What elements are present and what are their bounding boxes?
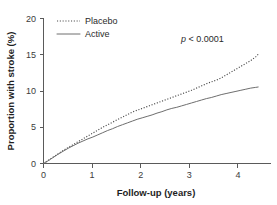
x-tick-label: 0 xyxy=(41,170,46,180)
series-line-placebo xyxy=(44,54,259,163)
x-tick-label: 3 xyxy=(187,170,192,180)
chart-legend: Placebo Active xyxy=(57,16,118,39)
pvalue-value: < 0.0001 xyxy=(186,34,224,44)
x-tick-label: 2 xyxy=(138,170,143,180)
chart-figure: 20 15 10 5 0 0 1 2 3 4 Follow-up (years)… xyxy=(0,0,277,205)
y-tick-label: 0 xyxy=(31,159,36,169)
pvalue-annotation: p < 0.0001 xyxy=(180,34,224,44)
y-tick-label: 10 xyxy=(26,86,36,96)
x-axis-title: Follow-up (years) xyxy=(117,187,196,198)
y-tick-label: 5 xyxy=(31,122,36,132)
y-tick-label: 15 xyxy=(26,50,36,60)
y-axis-ticks: 20 15 10 5 0 xyxy=(26,14,44,169)
legend-label-placebo: Placebo xyxy=(85,16,118,26)
legend-label-active: Active xyxy=(85,29,110,39)
x-tick-label: 1 xyxy=(90,170,95,180)
stroke-incidence-line-chart: 20 15 10 5 0 0 1 2 3 4 Follow-up (years)… xyxy=(0,0,277,205)
y-axis-title: Proportion with stroke (%) xyxy=(5,32,16,151)
series-line-active xyxy=(44,87,259,163)
y-tick-label: 20 xyxy=(26,14,36,24)
x-tick-label: 4 xyxy=(235,170,240,180)
x-axis-ticks: 0 1 2 3 4 xyxy=(41,164,240,181)
